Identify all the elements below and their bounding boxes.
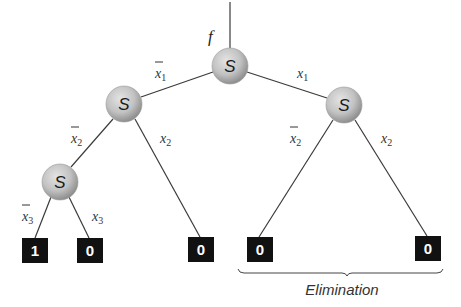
terminal-5: 0 [415,236,441,261]
edge-label-x2-right: x2 [380,131,392,148]
node-label: S [54,173,66,192]
node-label: S [224,57,236,76]
node-left-left: S [42,164,78,200]
svg-text:x2: x2 [159,131,171,148]
edge-label-x3: x3 [91,209,103,226]
function-label: f [208,27,215,46]
edge-label-x2-left: x2 [159,131,171,148]
edge-label-not-x2-left: x2 [70,127,82,148]
edge-label-not-x1: x1 [154,62,166,83]
node-label: S [338,96,350,115]
terminal-1: 1 [22,238,48,263]
node-left: S [106,86,142,122]
svg-text:0: 0 [424,240,432,257]
svg-text:x1: x1 [296,66,308,83]
svg-text:x1: x1 [154,66,166,83]
edge-root-right [247,72,327,98]
terminal-3: 0 [188,237,214,262]
svg-text:0: 0 [86,242,94,259]
edge-label-not-x2-right: x2 [289,127,301,148]
svg-text:0: 0 [256,241,264,258]
node-right: S [326,87,362,123]
terminal-2: 0 [77,238,103,263]
edge-leftleft-t1 [35,197,51,238]
svg-text:x2: x2 [380,131,392,148]
edge-label-not-x3: x3 [21,205,33,226]
svg-text:x3: x3 [91,209,103,226]
svg-text:x2: x2 [70,131,82,148]
decision-diagram: f S S S S x1 x1 x2 x2 x2 x2 x3 x3 [0,0,461,307]
node-label: S [118,95,130,114]
elimination-brace [238,269,443,276]
svg-text:1: 1 [31,242,39,259]
svg-text:x2: x2 [289,131,301,148]
edge-root-left [141,72,213,97]
edge-label-x1: x1 [296,66,308,83]
edges [35,2,427,238]
terminal-4: 0 [247,237,273,262]
edge-leftleft-t2 [69,197,89,238]
svg-text:0: 0 [197,241,205,258]
node-root: S [212,48,248,84]
elimination-caption: Elimination [305,281,378,298]
svg-text:x3: x3 [21,209,33,226]
